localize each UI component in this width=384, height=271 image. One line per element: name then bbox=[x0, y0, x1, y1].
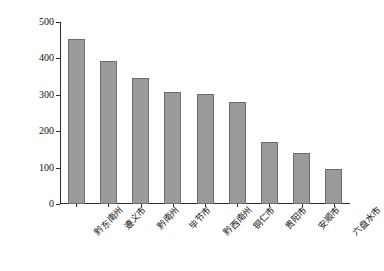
x-tick-label: 黔西南州 bbox=[222, 205, 255, 238]
bar bbox=[229, 102, 246, 204]
bar bbox=[100, 61, 117, 204]
bar-series bbox=[60, 22, 350, 204]
bar bbox=[132, 78, 149, 204]
y-tick-label: 200 bbox=[39, 124, 54, 137]
bar bbox=[261, 142, 278, 204]
y-tick-label: 500 bbox=[39, 15, 54, 28]
x-tick-label: 贵阳市 bbox=[283, 205, 310, 232]
x-tick-label: 六盘水市 bbox=[350, 205, 383, 238]
bar bbox=[68, 39, 85, 204]
y-tick-label: 0 bbox=[49, 197, 54, 210]
x-tick-label: 黔南州 bbox=[154, 205, 181, 232]
y-tick-label: 100 bbox=[39, 161, 54, 174]
bar bbox=[197, 94, 214, 204]
x-tick-label: 铜仁市 bbox=[251, 205, 278, 232]
x-tick-label: 安顺市 bbox=[316, 205, 343, 232]
y-tick-label: 300 bbox=[39, 88, 54, 101]
y-tick-label: 400 bbox=[39, 51, 54, 64]
bar bbox=[164, 92, 181, 204]
x-axis-labels: 黔东南州遵义市黔南州毕节市黔西南州铜仁市贵阳市安顺市六盘水市 bbox=[60, 205, 360, 271]
bar bbox=[325, 169, 342, 204]
plot-area: 0100200300400500 bbox=[60, 22, 350, 204]
x-tick-label: 遵义市 bbox=[122, 205, 149, 232]
x-tick-label: 毕节市 bbox=[187, 205, 214, 232]
bar bbox=[293, 153, 310, 204]
x-tick-label: 黔东南州 bbox=[93, 205, 126, 238]
